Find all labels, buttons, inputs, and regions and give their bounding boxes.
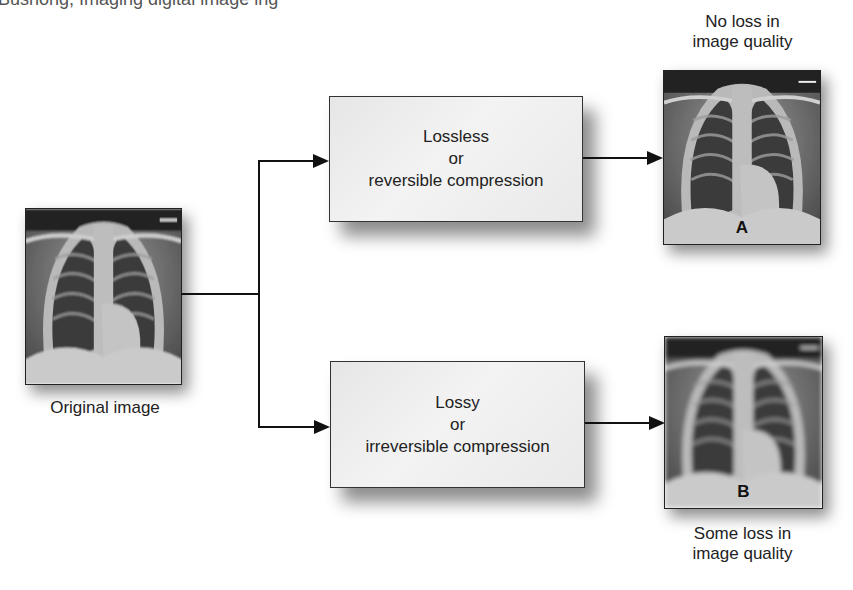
lossless-line2: or [448,148,463,170]
lossless-line3: reversible compression [369,170,544,192]
lossy-compression-box: Lossy or irreversible compression [330,361,585,488]
lossless-line1: Lossless [423,126,489,148]
lossless-compression-box: Lossless or reversible compression [329,96,583,222]
chest-xray-icon [26,209,181,384]
result-a-caption-line1: No loss in [655,12,830,32]
lossy-line3: irreversible compression [365,436,549,458]
result-b-caption-line2: image quality [655,544,830,564]
arrow-to-lossy-icon [314,420,330,434]
connector-to-lossless [258,160,316,162]
result-a-caption: No loss in image quality [655,12,830,52]
arrow-to-result-b-icon [649,416,665,430]
connector-to-result-b [585,422,651,424]
result-b-caption: Some loss in image quality [655,524,830,564]
connector-to-result-a [583,157,649,159]
result-a-label: A [664,218,820,238]
connector-from-original [181,293,259,295]
lossy-line2: or [450,414,465,436]
result-b-label: B [665,482,822,502]
result-b-caption-line1: Some loss in [655,524,830,544]
lossy-line1: Lossy [435,392,479,414]
connector-to-lossy [258,426,316,428]
original-caption: Original image [20,398,190,418]
arrow-to-result-a-icon [647,151,663,165]
result-a-xray-image: A [663,70,821,245]
arrow-to-lossless-icon [313,154,329,168]
header-cut-text: Bushong, Imaging digital image ing [0,0,278,10]
original-xray-image [25,208,182,385]
result-a-caption-line2: image quality [655,32,830,52]
connector-vertical [258,160,260,428]
result-b-xray-image: B [664,336,823,509]
